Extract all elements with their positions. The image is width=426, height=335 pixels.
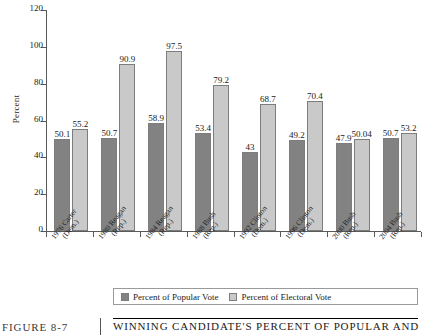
bar-value-label: 97.5 [166,41,182,51]
bar-value-label: 68.7 [260,94,276,104]
legend-item-electoral: Percent of Electoral Vote [229,292,331,302]
x-axis-tick-mark [46,232,47,237]
bar-group: 50.155.2 [46,10,93,231]
bar-value-label: 79.2 [213,75,229,85]
figure-number: FIGURE 8-7 [2,321,68,333]
legend-label-electoral: Percent of Electoral Vote [241,292,331,302]
x-axis-tick-mark [93,232,94,237]
bar-group: 50.753.2 [374,10,421,231]
bar-value-label: 58.9 [148,113,164,123]
bar-value-label: 50.7 [101,128,117,138]
bar-electoral-vote: 79.2 [213,85,229,231]
bar-group: 53.479.2 [187,10,234,231]
caption-divider [100,318,101,335]
caption-rule [113,318,418,319]
bar-group: 58.997.5 [140,10,187,231]
y-axis-tick-label: 80 [34,77,43,87]
x-axis-tick-mark [374,232,375,237]
bar-group: 4368.7 [234,10,281,231]
bar-value-label: 43 [245,142,254,152]
x-axis-tick-mark [187,232,188,237]
chart-legend: Percent of Popular Vote Percent of Elect… [113,288,418,305]
x-axis-tick-mark [327,232,328,237]
legend-swatch-electoral-icon [229,293,237,301]
bar-value-label: 50.1 [55,129,71,139]
bar-group: 50.790.9 [93,10,140,231]
bar-group: 49.270.4 [280,10,327,231]
y-axis-tick-label: 60 [34,114,43,124]
x-axis-tick-mark [421,232,422,237]
bar-value-label: 53.2 [401,123,417,133]
y-axis-tick-label: 0 [39,224,44,234]
bar-value-label: 50.04 [352,129,372,139]
bar-value-label: 53.4 [195,123,211,133]
bar-value-label: 47.9 [336,133,352,143]
legend-label-popular: Percent of Popular Vote [133,292,218,302]
figure-container: Percent 020406080100120 50.155.250.790.9… [0,0,426,335]
figure-caption: WINNING CANDIDATE'S PERCENT OF POPULAR A… [113,320,419,332]
plot-area: 020406080100120 50.155.250.790.958.997.5… [46,10,421,232]
x-axis-tick-mark [140,232,141,237]
y-axis-title: Percent [11,79,21,139]
bar-group: 47.950.04 [327,10,374,231]
bar-value-label: 70.4 [307,91,323,101]
bar-value-label: 49.2 [289,130,305,140]
bar-value-label: 55.2 [73,119,89,129]
x-axis-tick-mark [234,232,235,237]
y-axis-tick-label: 40 [34,150,43,160]
legend-swatch-popular-icon [121,293,129,301]
legend-item-popular: Percent of Popular Vote [121,292,218,302]
bar-value-label: 50.7 [383,128,399,138]
y-axis-tick-label: 100 [30,40,44,50]
x-axis-tick-mark [280,232,281,237]
y-axis-tick-label: 120 [30,3,44,13]
y-axis-tick-label: 20 [34,187,43,197]
bar-value-label: 90.9 [119,54,135,64]
